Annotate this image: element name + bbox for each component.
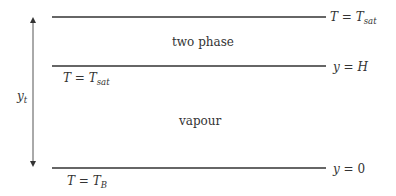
top-boundary-label: T = Tsat <box>330 10 377 26</box>
two-phase-region-label: two phase <box>172 35 234 49</box>
phase-layer-diagram: yt T = Tsat two phase y = H T = Tsat vap… <box>0 0 396 196</box>
bottom-boundary-height-label: y = 0 <box>332 162 365 176</box>
middle-boundary-temperature-label: T = Tsat <box>63 71 110 87</box>
dimension-label: yt <box>16 89 28 105</box>
middle-boundary-height-label: y = H <box>332 60 368 74</box>
bottom-boundary-temperature-label: T = TB <box>67 174 107 190</box>
vapour-region-label: vapour <box>178 114 222 128</box>
